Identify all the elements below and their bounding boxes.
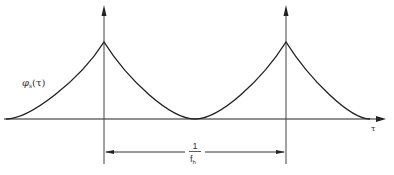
peak-axis-1-arrow-icon <box>102 5 107 16</box>
x-axis-label: τ <box>371 124 376 133</box>
autocorrelation-curve <box>6 42 370 119</box>
period-arrow-right-icon <box>276 150 285 154</box>
peak-axis-2-arrow-icon <box>284 5 289 16</box>
tau-axis-arrow-icon <box>376 116 386 122</box>
period-arrow-left-icon <box>105 150 114 154</box>
autocorrelation-diagram: 1 fh φs(τ) τ <box>0 0 394 175</box>
period-numerator: 1 <box>192 141 197 151</box>
period-denominator: fh <box>190 154 196 165</box>
y-axis-label: φs(τ) <box>22 77 46 89</box>
